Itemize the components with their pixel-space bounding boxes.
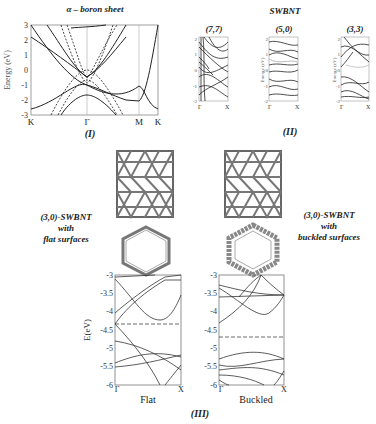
- svg-text:0: 0: [338, 68, 341, 73]
- svg-text:-6: -6: [210, 381, 217, 390]
- panel-i-caption: (I): [70, 128, 110, 139]
- svg-text:X: X: [281, 385, 287, 393]
- svg-text:-5: -5: [106, 344, 113, 353]
- svg-text:1: 1: [338, 52, 341, 57]
- svg-text:-4: -4: [106, 307, 113, 316]
- flat-surfaces-description: (3,0)-SWBNT with flat surfaces: [28, 212, 104, 245]
- svg-text:-1: -1: [264, 84, 269, 89]
- svg-text:-5.5: -5.5: [204, 362, 217, 371]
- svg-text:0: 0: [24, 66, 28, 75]
- svg-text:Γ: Γ: [115, 385, 120, 393]
- buckled-nanotube-side-view: [224, 150, 284, 220]
- buckled-surfaces-description: (3,0)-SWBNT with buckled surfaces: [286, 210, 372, 243]
- svg-text:Γ: Γ: [219, 385, 224, 393]
- svg-text:K: K: [28, 117, 35, 127]
- svg-text:-1: -1: [336, 84, 341, 89]
- svg-text:X: X: [178, 385, 184, 393]
- svg-text:Energy (eV): Energy (eV): [260, 57, 265, 82]
- svg-text:3: 3: [24, 21, 28, 30]
- svg-text:-3: -3: [210, 271, 217, 280]
- svg-text:2: 2: [195, 37, 198, 42]
- svg-text:X: X: [225, 104, 230, 110]
- svg-text:-4: -4: [210, 307, 217, 316]
- panel-i-title: α – boron sheet: [30, 4, 160, 14]
- subpanel-77-title: (7,7): [196, 24, 232, 34]
- svg-text:Energy (eV): Energy (eV): [332, 57, 337, 82]
- svg-text:Energy (eV): Energy (eV): [3, 50, 12, 90]
- svg-text:Γ: Γ: [84, 117, 89, 127]
- panel-i-band-plot: 3 2 1 0 -1 -2 -3 Energy (eV) K Γ M K: [0, 18, 170, 128]
- subpanel-33-title: (3,3): [337, 24, 373, 34]
- svg-text:2: 2: [24, 36, 28, 45]
- svg-text:-3: -3: [106, 271, 113, 280]
- svg-text:0: 0: [266, 68, 269, 73]
- svg-text:E(eV): E(eV): [82, 319, 92, 341]
- svg-text:1: 1: [195, 52, 198, 57]
- svg-text:Γ: Γ: [340, 104, 344, 110]
- svg-text:2: 2: [338, 37, 341, 42]
- svg-text:Γ: Γ: [198, 104, 202, 110]
- flat-label: Flat: [128, 394, 168, 405]
- buckled-label: Buckled: [226, 394, 286, 405]
- svg-text:-2: -2: [21, 96, 28, 105]
- svg-text:-3.5: -3.5: [100, 289, 113, 298]
- svg-text:1: 1: [266, 52, 269, 57]
- panel-ii-title: SWBNT: [250, 6, 320, 16]
- svg-text:2: 2: [266, 37, 269, 42]
- svg-text:-1: -1: [193, 84, 198, 89]
- svg-text:-5: -5: [210, 344, 217, 353]
- svg-text:-2: -2: [193, 99, 198, 104]
- svg-text:-1: -1: [21, 81, 28, 90]
- svg-text:1: 1: [24, 51, 28, 60]
- panel-iii-band-plots: -3 -3.5 -4 -4.5 -5 -5.5 -6 E(eV) Γ X -3 …: [80, 268, 300, 393]
- panel-iii-caption: (III): [180, 408, 220, 419]
- svg-text:-4.5: -4.5: [204, 326, 217, 335]
- svg-text:K: K: [155, 117, 162, 127]
- svg-text:-6: -6: [106, 381, 113, 390]
- flat-nanotube-side-view: [116, 150, 176, 220]
- panel-ii-band-plots: 210-1-2 Γ X Energy (eV) 210-1-2 Γ X Ener…: [184, 34, 376, 112]
- svg-text:X: X: [295, 104, 300, 110]
- svg-text:-3.5: -3.5: [204, 289, 217, 298]
- subpanel-50-title: (5,0): [266, 24, 302, 34]
- svg-text:-4.5: -4.5: [100, 326, 113, 335]
- svg-text:-5.5: -5.5: [100, 362, 113, 371]
- panel-ii-caption: (II): [270, 126, 310, 137]
- svg-text:0: 0: [195, 68, 198, 73]
- svg-text:M: M: [135, 117, 143, 127]
- svg-text:X: X: [366, 104, 371, 110]
- svg-text:Γ: Γ: [268, 104, 272, 110]
